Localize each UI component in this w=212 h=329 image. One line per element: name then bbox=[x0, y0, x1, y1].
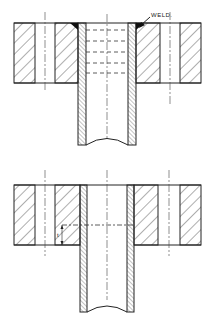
pipe-wall-left bbox=[78, 23, 86, 145]
flange-right-inner bbox=[136, 23, 160, 83]
flange-right-inner bbox=[134, 185, 158, 245]
weld-label: WELD. bbox=[151, 12, 173, 18]
pipe-break-line bbox=[86, 139, 128, 146]
flange-weld-diagram: WELD. t bbox=[0, 0, 212, 329]
pipe-wall-right bbox=[127, 185, 134, 312]
flange-left-inner bbox=[55, 23, 78, 83]
flange-right-outer bbox=[180, 23, 201, 83]
flange-right-outer bbox=[180, 185, 201, 245]
dimension-label: t bbox=[57, 232, 59, 238]
pipe-wall-left bbox=[80, 185, 87, 312]
pipe-break-line bbox=[87, 306, 127, 312]
bottom-figure: t bbox=[14, 170, 201, 312]
flange-left-outer bbox=[14, 185, 35, 245]
pipe-wall-right bbox=[128, 23, 136, 145]
top-figure: WELD. bbox=[14, 12, 201, 145]
flange-left-outer bbox=[14, 23, 35, 83]
